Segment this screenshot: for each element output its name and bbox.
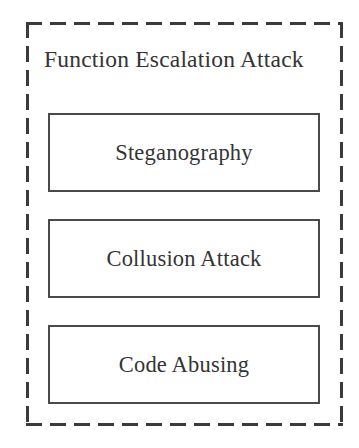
function-escalation-attack-group: Function Escalation Attack Steganography… [26, 22, 343, 426]
group-border-left [26, 22, 29, 426]
group-border-bottom [26, 423, 343, 426]
node-label: Collusion Attack [106, 246, 261, 272]
group-border-right [340, 22, 343, 426]
group-border-top [26, 22, 343, 25]
group-title: Function Escalation Attack [44, 44, 334, 74]
node-list: Steganography Collusion Attack Code Abus… [48, 113, 320, 404]
diagram-canvas: Function Escalation Attack Steganography… [0, 0, 359, 448]
node-code-abusing: Code Abusing [48, 325, 320, 404]
node-label: Code Abusing [119, 352, 250, 378]
node-steganography: Steganography [48, 113, 320, 192]
node-label: Steganography [115, 140, 253, 166]
node-collusion-attack: Collusion Attack [48, 219, 320, 298]
